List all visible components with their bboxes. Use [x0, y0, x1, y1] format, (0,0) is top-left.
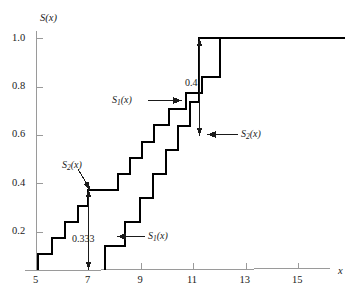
- s1-lower-tail: (x): [157, 230, 168, 241]
- y-tick-label-0-8: 0.8: [12, 81, 25, 92]
- y-tick-marks: [37, 39, 44, 233]
- x-tick-label-9: 9: [138, 275, 143, 286]
- s2-upper-tail: (x): [250, 128, 261, 139]
- gap-04-arrow-up: [197, 38, 202, 46]
- x-axis-line: [25, 269, 330, 271]
- gap-label-04: 0.4: [185, 78, 198, 88]
- gap-0333-arrow-down: [86, 262, 91, 270]
- curve-callout-s1-lower: S1(x): [148, 231, 168, 242]
- curve-callout-s2-lower: S2(x): [62, 160, 82, 171]
- x-tick-label-11: 11: [187, 275, 197, 286]
- s1-upper-tail: (x): [121, 94, 132, 105]
- gap-label-0333: 0.333: [72, 234, 95, 244]
- y-tick-label-0-4: 0.4: [12, 178, 25, 189]
- x-tick-label-5: 5: [33, 275, 38, 286]
- curve-callout-s1-upper: S1(x): [112, 95, 132, 106]
- x-axis-title-text: x: [338, 265, 343, 276]
- x-axis-title: x: [338, 266, 343, 277]
- y-axis-title: S(x): [40, 13, 57, 24]
- x-tick-label-13: 13: [240, 275, 251, 286]
- y-tick-label-1-0: 1.0: [12, 33, 25, 44]
- x-tick-label-15: 15: [292, 275, 303, 286]
- gap-annotation-0333: [86, 189, 91, 270]
- x-tick-label-7: 7: [85, 275, 90, 286]
- step-function-chart-svg: [0, 0, 360, 293]
- leader-s1-lower: [117, 233, 145, 240]
- y-tick-label-0-6: 0.6: [12, 129, 25, 140]
- leader-s2-lower: [78, 169, 91, 191]
- leader-s1-upper: [148, 97, 182, 104]
- curve-callout-s2-upper: S2(x): [241, 129, 261, 140]
- y-axis-title-text: S(x): [40, 12, 57, 23]
- s2-lower-tail: (x): [71, 159, 82, 170]
- leader-s2-upper: [207, 131, 238, 138]
- y-tick-label-0-2: 0.2: [12, 226, 25, 237]
- gap-04-arrow-down: [197, 128, 202, 136]
- chart-figure: S(x) x 1.0 0.8 0.6 0.4 0.2 5 7 9 11 13 1…: [0, 0, 360, 293]
